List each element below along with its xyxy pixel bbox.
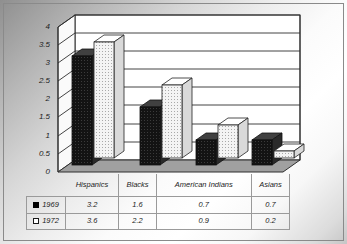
chart-image: 4 3.5 3 2.5 2 1.5 1 0.5 0 Hispanics Blac… <box>0 0 347 244</box>
table-row: 1972 3.6 2.2 0.9 0.2 <box>27 213 290 229</box>
y-tick-label: 2.5 <box>26 77 50 85</box>
y-tick-label: 0.5 <box>26 150 50 158</box>
y-tick-label: 4 <box>26 23 50 31</box>
cell-1969-american-indians: 0.7 <box>156 197 251 213</box>
table-header-row: Hispanics Blacks American Indians Asians <box>27 174 290 197</box>
cell-1972-blacks: 2.2 <box>119 213 156 229</box>
cell-1969-asians: 0.7 <box>251 197 289 213</box>
cell-1972-american-indians: 0.9 <box>156 213 251 229</box>
bar-1972-hispanics <box>94 35 124 158</box>
bar-1972-blacks <box>162 78 192 158</box>
bar-group-hispanics <box>72 35 124 165</box>
legend-label-1969: 1969 <box>42 200 59 209</box>
legend-item-1972: 1972 <box>27 213 66 229</box>
cell-1972-asians: 0.2 <box>251 213 289 229</box>
table-row: 1969 3.2 1.6 0.7 0.7 <box>27 197 290 213</box>
legend-label-1972: 1972 <box>42 216 59 225</box>
bar-1972-american-indians <box>218 118 248 158</box>
column-header-hispanics: Hispanics <box>66 174 119 197</box>
column-header-blacks: Blacks <box>119 174 156 197</box>
data-table: Hispanics Blacks American Indians Asians… <box>26 174 290 230</box>
y-tick-label: 1 <box>26 132 50 140</box>
y-tick-label: 3.5 <box>26 41 50 49</box>
cell-1969-hispanics: 3.2 <box>66 197 119 213</box>
cell-1969-blacks: 1.6 <box>119 197 156 213</box>
y-tick-label: 2 <box>26 95 50 103</box>
y-tick-label: 1.5 <box>26 113 50 121</box>
legend-swatch-open-square-icon <box>33 218 39 224</box>
cell-1972-hispanics: 3.6 <box>66 213 119 229</box>
column-header-asians: Asians <box>251 174 289 197</box>
column-header-american-indians: American Indians <box>156 174 251 197</box>
legend-swatch-filled-square-icon <box>33 202 39 208</box>
y-tick-label: 3 <box>26 59 50 67</box>
legend-item-1969: 1969 <box>27 197 66 213</box>
table-corner-cell <box>27 174 66 197</box>
